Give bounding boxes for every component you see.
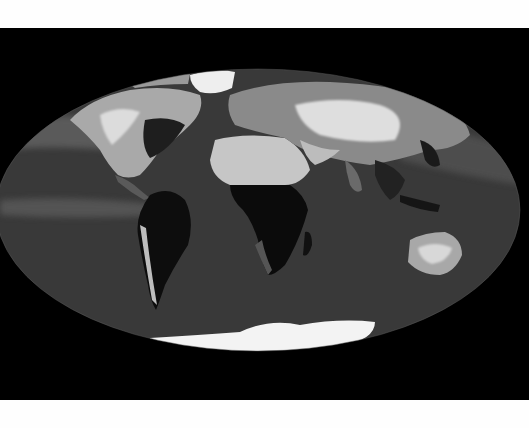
map-panel	[0, 28, 529, 400]
world-map	[0, 28, 529, 400]
top-frame-band	[0, 0, 529, 28]
bottom-frame-band	[0, 400, 529, 428]
